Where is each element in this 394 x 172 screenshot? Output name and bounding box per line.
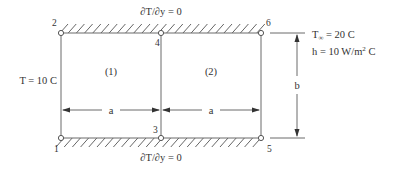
- hatch-mark-top: [101, 24, 109, 33]
- hatch-mark-top: [126, 24, 134, 33]
- hatch-mark-bottom: [113, 138, 121, 147]
- node-1-label: 1: [54, 144, 59, 154]
- node-2: [58, 30, 63, 35]
- hatch-mark-top: [76, 24, 84, 33]
- node-4-label: 4: [155, 38, 160, 48]
- node-3: [158, 135, 163, 140]
- node-4: [158, 30, 163, 35]
- hatch-mark-top: [109, 24, 117, 33]
- dimension-b: b: [270, 33, 305, 138]
- hatch-mark-bottom: [171, 138, 179, 147]
- hatch-mark-top: [232, 24, 240, 33]
- hatch-mark-bottom: [72, 138, 80, 147]
- hatch-mark-top: [216, 24, 224, 33]
- node-3-label: 3: [153, 125, 158, 135]
- node-6: [258, 30, 263, 35]
- hatch-mark-bottom: [163, 138, 171, 147]
- dimension-b-label: b: [294, 80, 299, 91]
- hatch-mark-top: [240, 24, 248, 33]
- hatch-mark-bottom: [212, 138, 220, 147]
- ambient-temperature-label: T∞ = 20 C: [312, 29, 355, 42]
- hatch-mark-top: [85, 24, 93, 33]
- node-1: [58, 135, 63, 140]
- hatch-mark-bottom: [236, 138, 244, 147]
- node-6-label: 6: [266, 18, 271, 28]
- hatch-mark-top: [208, 24, 216, 33]
- hatch-mark-top: [249, 24, 257, 33]
- hatch-mark-top: [117, 24, 125, 33]
- hatch-mark-bottom: [220, 138, 228, 147]
- hatch-mark-top: [134, 24, 142, 33]
- fem-diagram: a a b (1) (2) 1 2 3 4 5 6 ∂T/∂y = 0 ∂T/∂…: [0, 0, 394, 172]
- hatch-mark-top: [224, 24, 232, 33]
- element-2-label: (2): [205, 66, 218, 78]
- bottom-boundary-condition: ∂T/∂y = 0: [140, 152, 181, 163]
- hatch-mark-top: [191, 24, 199, 33]
- hatch-mark-bottom: [245, 138, 253, 147]
- hatch-mark-bottom: [179, 138, 187, 147]
- top-boundary-condition: ∂T/∂y = 0: [140, 6, 181, 17]
- dimension-a-2-label: a: [209, 105, 214, 116]
- hatch-mark-top: [183, 24, 191, 33]
- left-boundary-condition: T = 10 C: [19, 75, 57, 86]
- hatch-mark-bottom: [122, 138, 130, 147]
- hatch-mark-top: [199, 24, 207, 33]
- hatch-mark-top: [175, 24, 183, 33]
- node-5: [258, 135, 263, 140]
- node-2-label: 2: [52, 18, 57, 28]
- hatch-mark-bottom: [204, 138, 212, 147]
- hatch-mark-top: [68, 24, 76, 33]
- element-1-label: (1): [105, 66, 118, 78]
- hatch-mark-top: [142, 24, 150, 33]
- convection-coefficient-label: h = 10 W/m2 C: [312, 45, 376, 57]
- hatch-mark-bottom: [130, 138, 138, 147]
- hatch-mark-bottom: [97, 138, 105, 147]
- dimension-a-1-label: a: [109, 105, 114, 116]
- hatch-mark-bottom: [89, 138, 97, 147]
- hatch-mark-bottom: [187, 138, 195, 147]
- dimension-a-2: a: [162, 105, 260, 116]
- dimension-a-1: a: [62, 105, 160, 116]
- hatch-mark-bottom: [81, 138, 89, 147]
- hatch-mark-top: [150, 24, 158, 33]
- hatch-mark-bottom: [138, 138, 146, 147]
- hatch-mark-bottom: [228, 138, 236, 147]
- hatch-mark-bottom: [195, 138, 203, 147]
- node-5-label: 5: [267, 144, 272, 154]
- hatch-mark-bottom: [146, 138, 154, 147]
- hatch-mark-top: [93, 24, 101, 33]
- hatch-mark-bottom: [105, 138, 113, 147]
- hatch-mark-bottom: [64, 138, 72, 147]
- hatch-mark-top: [167, 24, 175, 33]
